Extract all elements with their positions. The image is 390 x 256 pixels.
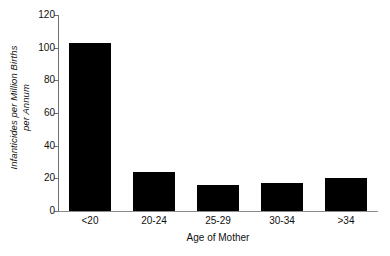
bar-chart-figure: Infanticides per Million Births per Annu… — [0, 0, 390, 256]
y-axis-tick-label: 40 — [25, 139, 55, 152]
x-axis-line — [58, 211, 378, 212]
x-axis-tick-labels: <2020-2425-2930-34>34 — [58, 214, 378, 230]
y-axis-tick-label: 20 — [25, 171, 55, 184]
x-axis-tick-label: 20-24 — [122, 214, 186, 228]
bar — [325, 178, 367, 211]
y-axis-tick-label: 120 — [25, 8, 55, 21]
y-axis-tick-label: 100 — [25, 41, 55, 54]
bar — [197, 185, 239, 211]
y-axis-title-line-1: Infanticides per Million Births — [8, 45, 19, 169]
y-axis-tick-label: 80 — [25, 73, 55, 86]
plot-area: 020406080100120 — [58, 15, 378, 211]
x-axis-tick-label: 25-29 — [186, 214, 250, 228]
bar — [69, 43, 111, 211]
y-axis-tick-label: 60 — [25, 106, 55, 119]
y-axis-tick-label: 0 — [25, 204, 55, 217]
bar — [261, 183, 303, 211]
x-axis-title: Age of Mother — [58, 231, 378, 245]
bar — [133, 172, 175, 211]
x-axis-tick-label: <20 — [58, 214, 122, 228]
x-axis-tick-label: >34 — [314, 214, 378, 228]
x-axis-tick-label: 30-34 — [250, 214, 314, 228]
bar-series — [58, 15, 378, 211]
